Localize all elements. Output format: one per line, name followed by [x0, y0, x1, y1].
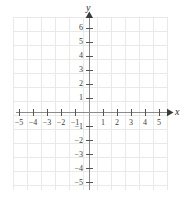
y-tick-label--4: −4	[69, 165, 83, 173]
x-tick-label-1: 1	[101, 119, 105, 127]
y-tick-label--3: −3	[69, 151, 83, 159]
y-tick-label-2: 2	[73, 80, 83, 88]
y-tick-label--5: −5	[69, 179, 83, 187]
x-tick-label--4: −4	[29, 119, 38, 127]
y-tick-label-5: 5	[73, 38, 83, 46]
grid-lines	[13, 17, 168, 190]
graph-canvas: −5 −4 −3 −2 −1 1 2 3 4 5 6 5 4 3 2 1 −1 …	[0, 0, 185, 203]
y-axis-label: y	[86, 3, 90, 13]
x-tick-label-5: 5	[157, 119, 161, 127]
x-tick-label-4: 4	[143, 119, 147, 127]
x-tick-label--3: −3	[43, 119, 52, 127]
y-tick-label-1: 1	[73, 94, 83, 102]
x-tick-label--2: −2	[57, 119, 66, 127]
x-axis-label: x	[175, 107, 179, 117]
y-tick-label-4: 4	[73, 52, 83, 60]
y-tick-label--2: −2	[69, 137, 83, 145]
y-tick-label-6: 6	[73, 24, 83, 32]
plot-area	[13, 17, 168, 190]
y-tick-label--1: −1	[69, 123, 83, 131]
x-tick-label-2: 2	[115, 119, 119, 127]
x-tick-label-3: 3	[129, 119, 133, 127]
y-tick-label-3: 3	[73, 66, 83, 74]
top-text-strip	[0, 0, 185, 6]
x-tick-label--5: −5	[15, 119, 24, 127]
